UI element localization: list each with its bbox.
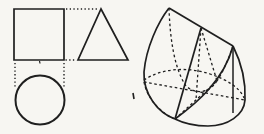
hidden-face-arc-left bbox=[169, 8, 217, 92]
front-slope-edge bbox=[175, 28, 201, 119]
projection-diagram bbox=[0, 0, 264, 134]
center-tick bbox=[40, 61, 41, 64]
scan-artifacts bbox=[133, 93, 134, 99]
top-view-circle bbox=[16, 76, 65, 125]
front-view-square bbox=[14, 9, 64, 60]
front-face-ellipse-edge bbox=[175, 46, 233, 119]
orthographic-views bbox=[14, 9, 128, 125]
top-ridge-edge bbox=[169, 8, 233, 46]
hidden-base-front-left-arc bbox=[144, 82, 175, 119]
pictorial-solid bbox=[144, 8, 245, 126]
edge-speck bbox=[133, 93, 134, 99]
hidden-base-back-arc bbox=[144, 69, 244, 98]
scanned-figure-page bbox=[0, 0, 264, 134]
side-view-triangle bbox=[78, 9, 128, 60]
